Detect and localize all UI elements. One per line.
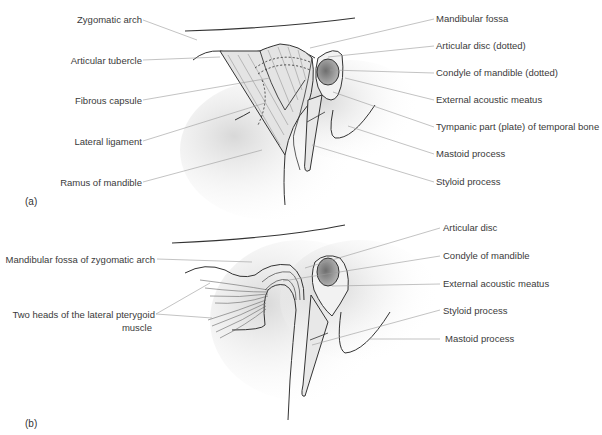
label-ramus-of-mandible: Ramus of mandible [60, 177, 142, 188]
label-lateral-ligament: Lateral ligament [74, 136, 142, 147]
panel-label-a: (a) [25, 196, 37, 207]
label-external-acoustic-meatus-b: External acoustic meatus [443, 278, 549, 289]
label-mastoid-process-b: Mastoid process [445, 333, 514, 344]
panel-b-drawing [172, 225, 440, 420]
label-mandibular-fossa-of-zygomatic-arch: Mandibular fossa of zygomatic arch [6, 254, 155, 265]
label-articular-tubercle: Articular tubercle [71, 55, 142, 66]
panel-a-drawing [180, 18, 420, 220]
label-condyle-of-mandible: Condyle of mandible [443, 250, 530, 261]
panel-label-b: (b) [25, 418, 37, 429]
label-zygomatic-arch: Zygomatic arch [77, 14, 142, 25]
label-mandibular-fossa: Mandibular fossa [436, 13, 508, 24]
label-styloid-process-a: Styloid process [436, 176, 500, 187]
label-styloid-process-b: Styloid process [443, 305, 507, 316]
label-articular-disc: Articular disc [443, 222, 497, 233]
label-fibrous-capsule: Fibrous capsule [75, 95, 142, 106]
label-articular-disc-dotted: Articular disc (dotted) [436, 40, 526, 51]
label-lateral-pterygoid-line1: Two heads of the lateral pterygoid [12, 309, 155, 320]
label-tympanic-part: Tympanic part (plate) of temporal bone [436, 121, 599, 132]
label-lateral-pterygoid-line2: muscle [122, 322, 152, 333]
label-external-acoustic-meatus-a: External acoustic meatus [436, 94, 542, 105]
label-mastoid-process-a: Mastoid process [436, 148, 505, 159]
label-condyle-of-mandible-dotted: Condyle of mandible (dotted) [436, 67, 558, 78]
